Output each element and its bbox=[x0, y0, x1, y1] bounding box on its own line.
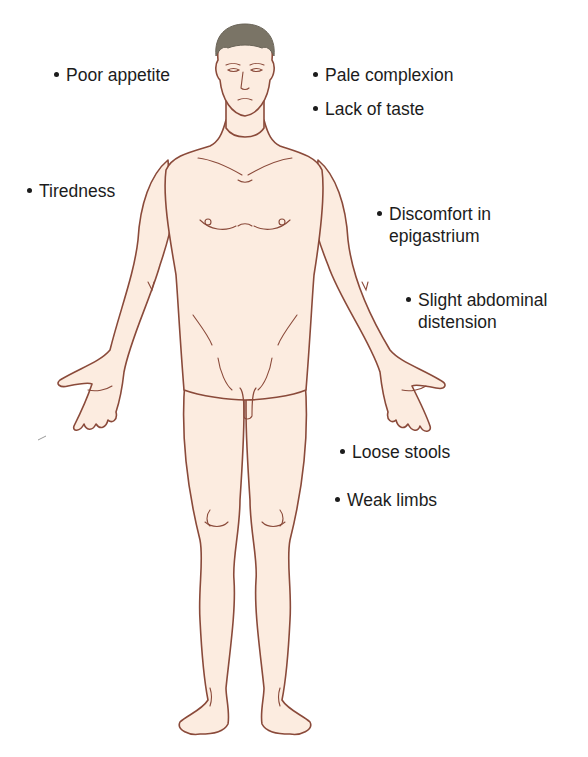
bullet-icon bbox=[335, 497, 340, 502]
right-leg bbox=[246, 380, 311, 734]
bullet-icon bbox=[377, 211, 382, 216]
symptom-label-slight-abdominal-distension: Slight abdominal distension bbox=[406, 289, 547, 333]
human-figure-illustration bbox=[0, 0, 588, 757]
left-leg bbox=[179, 380, 244, 734]
symptom-label-discomfort-epigastrium: Discomfort in epigastrium bbox=[377, 203, 491, 247]
bullet-icon bbox=[340, 449, 345, 454]
bullet-icon bbox=[313, 106, 318, 111]
bullet-icon bbox=[313, 72, 318, 77]
symptom-label-loose-stools: Loose stools bbox=[340, 441, 450, 463]
torso bbox=[165, 120, 323, 400]
diagram-canvas: Poor appetite Pale complexion Lack of ta… bbox=[0, 0, 588, 757]
bullet-icon bbox=[406, 297, 411, 302]
symptom-label-poor-appetite: Poor appetite bbox=[54, 64, 170, 86]
bullet-icon bbox=[54, 72, 59, 77]
bullet-icon bbox=[27, 188, 32, 193]
symptom-label-tiredness: Tiredness bbox=[27, 180, 115, 202]
symptom-label-lack-of-taste: Lack of taste bbox=[313, 98, 424, 120]
symptom-label-weak-limbs: Weak limbs bbox=[335, 489, 437, 511]
symptom-label-pale-complexion: Pale complexion bbox=[313, 64, 453, 86]
